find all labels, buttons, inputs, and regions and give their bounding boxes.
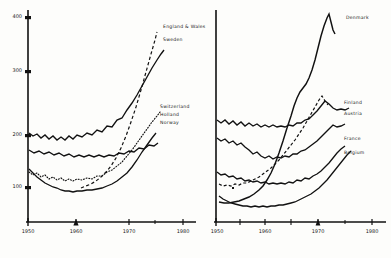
right-series xyxy=(217,14,351,207)
series-switzerland xyxy=(29,143,158,157)
left-x-tick-1980: 1980 xyxy=(172,228,194,234)
right-x-tick-1970: 1970 xyxy=(307,228,329,234)
series-label-holland: Holland xyxy=(160,112,179,117)
y-tick-100: 100 xyxy=(4,183,22,189)
series-belgium xyxy=(217,146,345,184)
series-holland xyxy=(29,112,160,181)
series-label-norway: Norway xyxy=(160,120,179,125)
plot-svg xyxy=(0,0,391,258)
series-france xyxy=(217,124,345,159)
series-denmark xyxy=(219,14,335,203)
series-label-england-wales: England & Wales xyxy=(163,24,205,29)
series-finland xyxy=(219,96,328,186)
left-x-tick-1950: 1950 xyxy=(17,228,39,234)
right-x-tick-1960: 1960 xyxy=(254,228,276,234)
series-label-belgium: Belgium xyxy=(344,150,365,155)
figure-canvas: 400 300 200 100 1950 1960 1970 1980 1950… xyxy=(0,0,391,258)
series-label-denmark: Denmark xyxy=(346,15,369,20)
right-x-tick-1950: 1950 xyxy=(206,228,228,234)
series-label-sweden: Sweden xyxy=(163,37,183,42)
series-austria xyxy=(217,101,349,127)
left-x-tick-1970: 1970 xyxy=(118,228,140,234)
right-axes xyxy=(214,10,386,226)
y-tick-300: 300 xyxy=(4,67,22,73)
right-x-tick-1980: 1980 xyxy=(361,228,383,234)
series-sweden xyxy=(29,50,164,140)
left-series xyxy=(29,32,164,192)
left-x-tick-1960: 1960 xyxy=(65,228,87,234)
series-label-finland: Finland xyxy=(344,100,362,105)
series-label-austria: Austria xyxy=(344,111,362,116)
series-label-france: France xyxy=(344,136,361,141)
series-label-switzerland: Switzerland xyxy=(160,104,190,109)
left-axes xyxy=(25,10,196,226)
y-tick-400: 400 xyxy=(4,13,22,19)
y-tick-200: 200 xyxy=(4,131,22,137)
